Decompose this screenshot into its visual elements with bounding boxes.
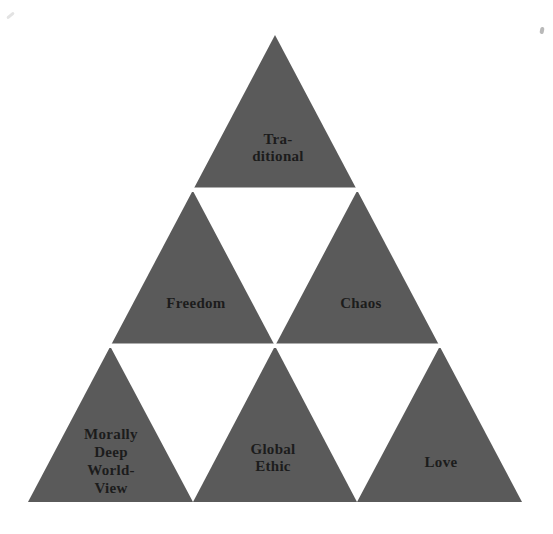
triangle-diagram	[0, 0, 553, 534]
scanned-page: Tra- ditional Freedom Chaos Morally Deep…	[0, 0, 553, 534]
row-separator-bottom	[0, 344, 553, 349]
row-separator-top	[0, 188, 553, 193]
